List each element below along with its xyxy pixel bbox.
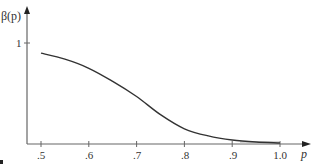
x-tick-label-0.7: .7: [133, 150, 141, 161]
x-tick-label-0.6: .6: [85, 150, 93, 161]
y-axis: [24, 6, 30, 144]
y-axis-label-text: β(p): [1, 9, 21, 23]
power-curve: [41, 53, 280, 143]
x-tick-label-0.5: .5: [37, 150, 45, 161]
x-tick-label-0.9: .9: [229, 150, 237, 161]
y-axis-arrow-icon: [24, 6, 30, 14]
corner-mark: [0, 160, 3, 164]
chart-canvas: [0, 0, 318, 166]
power-function-chart: β(p) 1 .5 .6 .7 .8 .9 1.0 p: [0, 0, 318, 166]
x-tick-label-0.8: .8: [181, 150, 189, 161]
y-axis-label: β(p): [1, 10, 21, 22]
y-tick-label-1: 1: [16, 38, 22, 49]
x-tick-label-1.0: 1.0: [273, 150, 287, 161]
x-axis-label: p: [301, 149, 307, 160]
